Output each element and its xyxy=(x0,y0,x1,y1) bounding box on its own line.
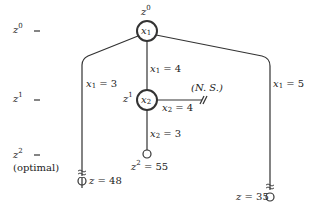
edge-left-label: x1 = 3 xyxy=(86,79,117,89)
edge-right-label: x1 = 5 xyxy=(273,79,304,89)
leaf-mid-label: z2 = 55 xyxy=(131,162,168,172)
root-node-label: x1 xyxy=(141,26,151,36)
edge-left xyxy=(82,36,138,188)
root-z-label: z0 xyxy=(141,7,151,17)
leaf-right-label: z = 35 xyxy=(236,192,269,202)
branch-and-bound-tree xyxy=(0,0,310,215)
edge-down-label: x2 = 3 xyxy=(150,129,181,139)
node-x2-label: x2 xyxy=(141,95,151,105)
level-label-optimal: (optimal) xyxy=(13,163,59,173)
node-x2-z-label: z1 xyxy=(123,94,133,104)
edge-ns-label: x2 = 4 xyxy=(162,103,193,113)
level-label-0: z0 xyxy=(13,25,23,35)
level-label-2: z2 xyxy=(13,150,23,160)
level-label-1: z1 xyxy=(13,94,23,104)
not-feasible-label: (N. S.) xyxy=(191,83,223,93)
leaf-mid-circle xyxy=(143,150,151,158)
edge-mid-label: x1 = 4 xyxy=(150,64,181,74)
leaf-left-label: z = 48 xyxy=(89,176,122,186)
